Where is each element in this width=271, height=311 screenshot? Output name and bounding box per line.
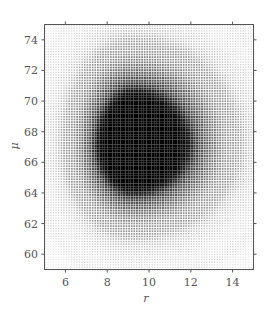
heatmap-plot: [0, 0, 271, 311]
y-tick-label: 66: [24, 157, 38, 168]
x-tick-label: 10: [142, 277, 156, 288]
y-tick-label: 70: [24, 96, 38, 107]
y-tick-label: 72: [24, 65, 38, 76]
y-axis-label: μ: [8, 142, 21, 149]
y-tick-label: 74: [24, 34, 38, 45]
chart-figure: 68101214 6062646668707274 r μ: [0, 0, 271, 311]
y-tick-label: 60: [24, 249, 38, 260]
x-axis-label: r: [143, 292, 148, 305]
y-tick-label: 62: [24, 218, 38, 229]
y-tick-label: 64: [24, 187, 38, 198]
x-tick-label: 8: [104, 277, 111, 288]
x-tick-label: 14: [226, 277, 240, 288]
x-tick-label: 6: [62, 277, 69, 288]
x-tick-label: 12: [184, 277, 198, 288]
heatmap-cells: [45, 25, 254, 271]
y-tick-label: 68: [24, 126, 38, 137]
